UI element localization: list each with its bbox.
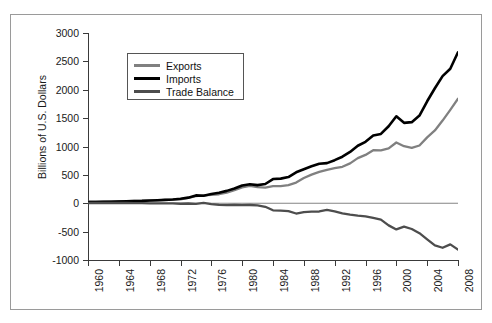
series-line-trade-balance xyxy=(88,203,458,250)
x-tick-label: 1984 xyxy=(278,269,290,292)
y-tick-label: 500 xyxy=(61,169,79,181)
x-tick xyxy=(150,261,151,266)
x-tick-label: 1976 xyxy=(216,269,228,292)
x-tick xyxy=(304,261,305,266)
y-tick-label: 3000 xyxy=(56,27,79,39)
x-tick xyxy=(427,261,428,266)
x-tick xyxy=(335,261,336,266)
x-tick-label: 1964 xyxy=(124,269,136,292)
x-tick xyxy=(211,261,212,266)
x-tick xyxy=(181,261,182,266)
x-tick-label: 1996 xyxy=(371,269,383,292)
legend-label: Trade Balance xyxy=(166,86,234,98)
x-tick xyxy=(119,261,120,266)
x-tick xyxy=(88,261,89,266)
x-tick-label: 1992 xyxy=(340,269,352,292)
y-tick-label: 2500 xyxy=(56,55,79,67)
legend-label: Exports xyxy=(166,60,202,72)
y-tick-label: 0 xyxy=(73,197,79,209)
x-tick-label: 1980 xyxy=(247,269,259,292)
legend-swatch-icon xyxy=(134,90,160,93)
chart-canvas: Billions of U.S. Dollars 300025002000150… xyxy=(0,0,492,323)
x-tick-label: 1988 xyxy=(309,269,321,292)
series-line-exports xyxy=(88,99,458,202)
chart-legend: ExportsImportsTrade Balance xyxy=(127,53,244,100)
x-tick xyxy=(273,261,274,266)
x-tick xyxy=(396,261,397,266)
y-tick-label: -500 xyxy=(58,226,79,238)
y-tick-label: 2000 xyxy=(56,84,79,96)
y-tick-label: 1000 xyxy=(56,141,79,153)
legend-label: Imports xyxy=(166,73,201,85)
x-tick-label: 2000 xyxy=(401,269,413,292)
x-tick xyxy=(242,261,243,266)
x-tick-label: 2004 xyxy=(432,269,444,292)
legend-item-imports[interactable]: Imports xyxy=(134,72,243,85)
x-tick-label: 1960 xyxy=(93,269,105,292)
legend-swatch-icon xyxy=(134,77,160,80)
x-tick-label: 1972 xyxy=(186,269,198,292)
y-tick-label: -1000 xyxy=(52,254,79,266)
y-axis-labels: 300025002000150010005000-500-1000 xyxy=(0,0,79,323)
x-tick-label: 2008 xyxy=(463,269,475,292)
legend-item-exports[interactable]: Exports xyxy=(134,59,243,72)
legend-swatch-icon xyxy=(134,64,160,66)
x-tick xyxy=(366,261,367,266)
legend-item-trade-balance[interactable]: Trade Balance xyxy=(134,85,243,98)
y-tick-label: 1500 xyxy=(56,112,79,124)
x-tick xyxy=(458,261,459,266)
x-tick-label: 1968 xyxy=(155,269,167,292)
